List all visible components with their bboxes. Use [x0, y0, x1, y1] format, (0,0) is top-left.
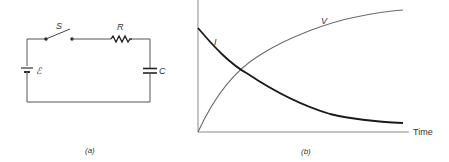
emf-label: ℰ	[36, 66, 43, 76]
x-axis-label: Time	[413, 127, 433, 137]
panel-b-caption: (b)	[301, 147, 311, 156]
voltage-curve	[198, 10, 403, 132]
graph-axes	[198, 0, 409, 132]
capacitor-label: C	[159, 66, 166, 76]
switch-label: S	[56, 21, 62, 31]
circuit-diagram	[21, 29, 157, 102]
voltage-curve-label: V	[321, 16, 328, 26]
figure-canvas: S R C ℰ (a) I V Time (b)	[0, 0, 449, 162]
panel-a-caption: (a)	[85, 146, 95, 155]
battery-icon	[21, 68, 33, 72]
current-curve-label: I	[214, 37, 217, 47]
capacitor-icon	[143, 69, 157, 74]
resistor-label: R	[117, 22, 124, 32]
resistor-icon	[111, 36, 132, 42]
current-curve	[198, 28, 403, 123]
